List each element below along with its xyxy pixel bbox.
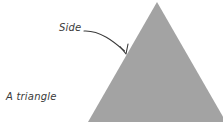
figure-canvas: Side A triangle has three sides. — [0, 0, 223, 130]
pointer-arrow-curve — [84, 31, 125, 51]
side-label: Side — [59, 22, 81, 33]
caption-line-1: A triangle — [6, 90, 57, 104]
pointer-arrow-head — [120, 44, 128, 54]
caption-block: A triangle has three sides. — [6, 62, 57, 130]
triangle-shape — [88, 2, 223, 122]
